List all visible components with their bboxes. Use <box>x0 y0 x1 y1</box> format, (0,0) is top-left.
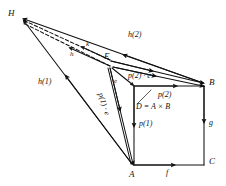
edge-label-k: k <box>86 41 89 48</box>
edge-label-f: f <box>166 169 168 177</box>
edge-label-p1: p(1) <box>139 120 152 128</box>
annotation-product-equation: D = A × B <box>136 103 170 111</box>
edge-label-h: h <box>70 51 74 58</box>
edge-label-h1: h(1) <box>38 78 51 86</box>
edges-from-e <box>108 61 203 164</box>
vertex-label-a: A <box>129 170 135 179</box>
vertex-label-b: B <box>209 78 215 87</box>
vertex-label-c: C <box>209 157 215 166</box>
edge-label-p2: p(2) <box>158 91 171 99</box>
edge-label-g: g <box>209 119 213 127</box>
vertex-label-h: H <box>8 9 15 18</box>
edge-label-p2-dot-e: p(2) · e <box>128 72 151 80</box>
vertex-label-e: E <box>104 52 110 61</box>
edge-label-h2: h(2) <box>128 31 141 39</box>
diagram-svg <box>0 0 226 186</box>
diagram-canvas: H E B C A h(2) h(1) k h e p(2) · e p(1) … <box>0 0 226 186</box>
dashed-morphisms <box>25 21 110 66</box>
edge-label-e: e <box>114 78 117 85</box>
